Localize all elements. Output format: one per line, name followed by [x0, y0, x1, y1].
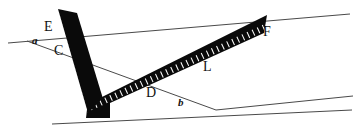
ray-to-upper-right: [216, 96, 353, 110]
label-point-f: F: [263, 25, 271, 39]
label-point-e: E: [44, 20, 53, 34]
ruler-vertical-arm: [58, 9, 107, 113]
geometry-figure: E a C D b L F: [0, 0, 357, 126]
label-angle-a: a: [32, 35, 38, 46]
upper-parallel-line: [8, 14, 350, 43]
label-angle-b: b: [178, 97, 184, 108]
ruler-elbow-joint: [86, 101, 110, 118]
label-point-d: D: [146, 86, 156, 100]
label-point-l: L: [203, 60, 212, 74]
label-point-c: C: [54, 44, 63, 58]
